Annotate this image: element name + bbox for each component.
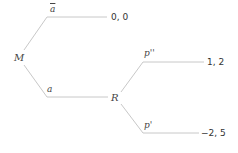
action-a-label: a bbox=[47, 85, 52, 94]
edge-r-pdoubleprime bbox=[121, 62, 204, 92]
payoff-top: 0, 0 bbox=[109, 12, 130, 23]
node-r: R bbox=[109, 92, 121, 104]
action-a-bar-label: a bbox=[50, 5, 55, 14]
action-p-double-prime-label: p'' bbox=[144, 49, 155, 58]
payoff-bottom: −2, 5 bbox=[199, 128, 228, 139]
node-m: M bbox=[12, 52, 26, 64]
edge-m-a bbox=[24, 65, 108, 97]
edge-m-abar bbox=[24, 17, 107, 50]
payoff-mid: 1, 2 bbox=[205, 57, 226, 68]
edge-r-pprime bbox=[121, 104, 204, 133]
action-p-prime-label: p' bbox=[144, 121, 152, 130]
